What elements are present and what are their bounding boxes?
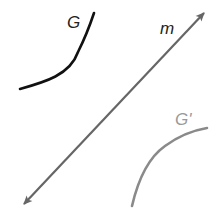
curve-g-prime xyxy=(132,128,207,206)
curve-g xyxy=(20,13,94,89)
label-g-prime: G' xyxy=(175,111,191,128)
label-m: m xyxy=(160,20,174,37)
line-m xyxy=(24,13,204,204)
reflection-diagram: G m G' xyxy=(0,0,218,221)
label-g: G xyxy=(67,14,80,31)
